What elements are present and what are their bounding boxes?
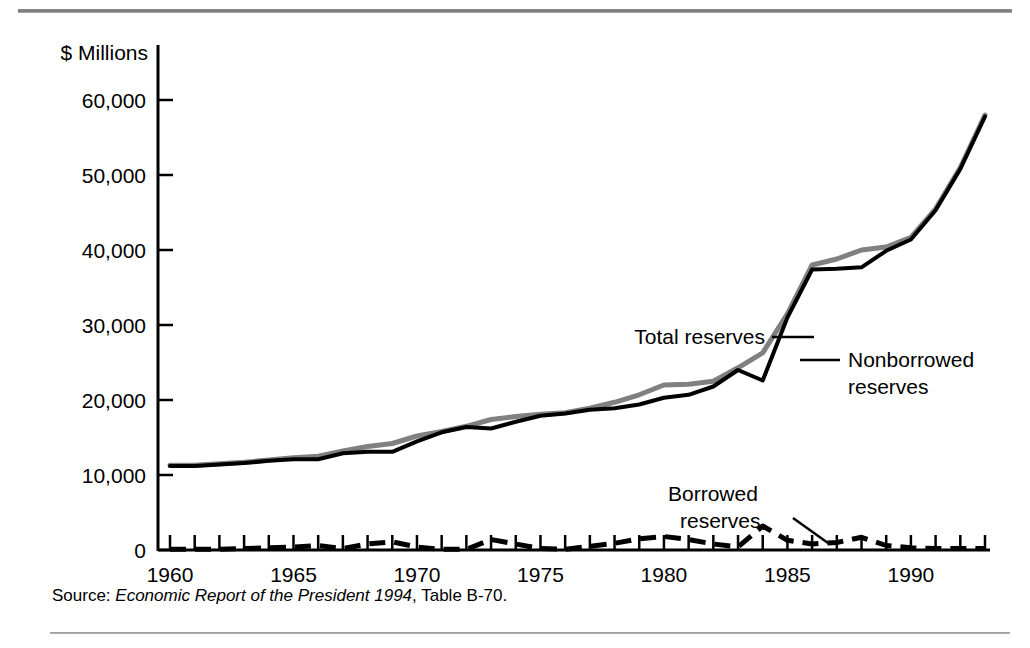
annotation-borrowed-reserves-line1: Borrowed [668, 482, 758, 505]
y-axis-tick-labels: 010,00020,00030,00040,00050,00060,000 [82, 89, 146, 562]
annotation-nonborrowed-reserves-line2: reserves [848, 375, 929, 398]
x-axis-tick-label: 1990 [888, 563, 935, 586]
y-axis-tick-label: 50,000 [82, 164, 146, 187]
chart-annotation-layer: Total reserves Nonborrowed reserves Borr… [634, 325, 974, 543]
y-axis-ticks [158, 100, 173, 550]
chart-series-layer [170, 115, 985, 549]
borrowed-reserves-leader-line [793, 518, 828, 543]
reserves-line-chart: $ Millions 010,00020,00030,00040,00050,0… [0, 0, 1030, 648]
x-axis-tick-label: 1975 [517, 563, 564, 586]
annotation-nonborrowed-reserves-line1: Nonborrowed [848, 348, 974, 371]
annotation-borrowed-reserves-line2: reserves [680, 509, 761, 532]
chart-axes [158, 45, 990, 551]
y-axis-tick-label: 10,000 [82, 464, 146, 487]
x-axis-tick-label: 1965 [270, 563, 317, 586]
y-axis-tick-label: 40,000 [82, 239, 146, 262]
x-axis-tick-label: 1960 [147, 563, 194, 586]
source-suffix: , Table B-70. [412, 586, 507, 605]
source-prefix: Source: [52, 586, 111, 605]
x-axis-tick-label: 1970 [394, 563, 441, 586]
y-axis-title: $ Millions [60, 41, 148, 64]
series-line-nonborrowed-reserves [170, 117, 985, 467]
y-axis-tick-label: 30,000 [82, 314, 146, 337]
figure-container: $ Millions 010,00020,00030,00040,00050,0… [0, 0, 1030, 648]
annotation-total-reserves: Total reserves [634, 325, 765, 348]
x-axis-tick-labels: 1960196519701975198019851990 [147, 563, 935, 586]
source-title: Economic Report of the President 1994 [115, 586, 412, 605]
y-axis-tick-label: 60,000 [82, 89, 146, 112]
source-note: Source: Economic Report of the President… [52, 586, 507, 606]
y-axis-tick-label: 0 [134, 539, 146, 562]
x-axis-tick-label: 1980 [641, 563, 688, 586]
x-axis-tick-label: 1985 [764, 563, 811, 586]
y-axis-tick-label: 20,000 [82, 389, 146, 412]
